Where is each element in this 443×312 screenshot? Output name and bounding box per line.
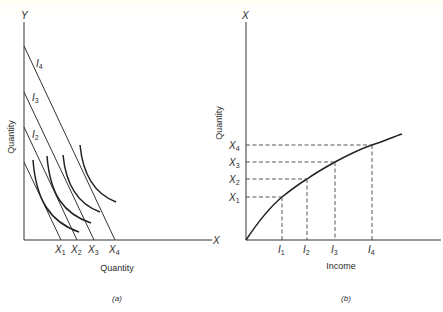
- indifference-curve-3: [63, 155, 100, 212]
- x-tick-label-1: X1: [54, 244, 66, 256]
- panel-a-x-title: Quantity: [100, 263, 134, 273]
- panel-b-y-axis-label: X: [241, 10, 249, 21]
- panel-b-y-title: Quantity: [214, 106, 224, 140]
- x-tick-label-3: X3: [87, 244, 99, 256]
- panel-b-x-title: Income: [326, 261, 356, 271]
- y-tick-label-4: X4: [228, 140, 240, 152]
- panel-a-y-axis-label: Y: [21, 10, 29, 21]
- budget-line-label-3: I3: [32, 92, 39, 104]
- income-tick-label-2: I2: [303, 244, 310, 256]
- income-tick-label-3: I3: [331, 244, 338, 256]
- panel-a-caption: (a): [112, 294, 122, 303]
- panel-a: Y X I4 I3 I2 X1 X2 X3 X4 Quantity Quanti…: [6, 10, 220, 303]
- panel-b-caption: (b): [341, 294, 351, 303]
- panel-b: X X1 X2 X3 X4 I1 I2 I3 I4 Quantity Incom…: [214, 10, 441, 303]
- y-tick-label-2: X2: [228, 174, 240, 186]
- x-tick-label-2: X2: [70, 244, 82, 256]
- engel-curve: [246, 134, 402, 240]
- y-tick-label-1: X1: [228, 192, 240, 204]
- panel-a-y-title: Quantity: [6, 120, 16, 154]
- x-tick-label-4: X4: [108, 244, 120, 256]
- budget-line-label-2: I2: [32, 129, 39, 141]
- panel-a-x-axis-label: X: [212, 235, 220, 246]
- budget-line-2: [24, 127, 77, 240]
- indifference-curve-4: [80, 145, 116, 202]
- y-tick-label-3: X3: [228, 157, 240, 169]
- figure: Y X I4 I3 I2 X1 X2 X3 X4 Quantity Quanti…: [0, 0, 443, 312]
- income-tick-label-1: I1: [278, 244, 285, 256]
- budget-line-label-4: I4: [36, 58, 43, 70]
- income-tick-label-4: I4: [368, 244, 375, 256]
